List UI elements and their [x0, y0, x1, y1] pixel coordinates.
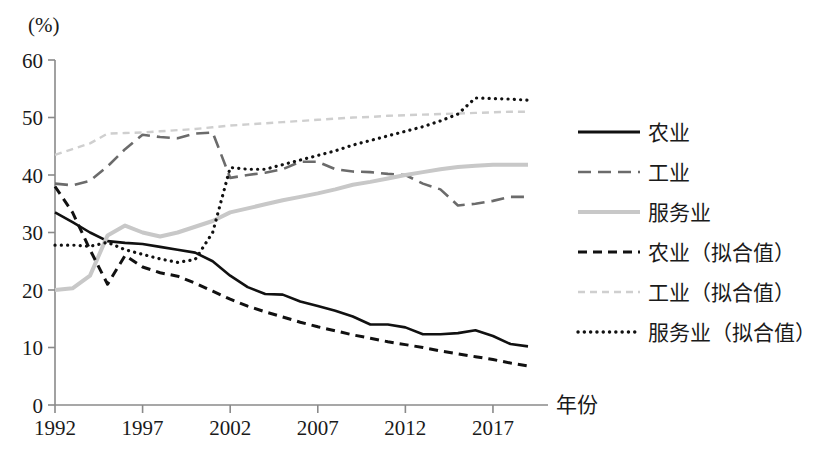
legend-item[interactable]: 农业	[578, 121, 690, 145]
legend-label: 工业	[648, 161, 690, 185]
x-tick-label: 2007	[297, 416, 339, 440]
y-tick-label: 60	[22, 49, 43, 73]
legend-item[interactable]: 工业（拟合值）	[578, 281, 795, 305]
y-axis-unit-label: (%)	[28, 13, 59, 37]
y-tick-label: 20	[22, 279, 43, 303]
legend-label: 农业（拟合值）	[648, 241, 795, 265]
y-tick-label: 50	[22, 106, 43, 130]
chart-container: (%) 0102030405060 1992199720022007201220…	[0, 0, 820, 473]
y-tick-label: 30	[22, 221, 43, 245]
series-line	[55, 212, 528, 346]
y-tick-label: 0	[33, 394, 44, 418]
y-tick-label: 40	[22, 164, 43, 188]
legend-item[interactable]: 工业	[578, 161, 690, 185]
x-tick-label: 2012	[384, 416, 426, 440]
legend-item[interactable]: 服务业	[578, 201, 711, 225]
legend-item[interactable]: 农业（拟合值）	[578, 241, 795, 265]
line-chart: (%) 0102030405060 1992199720022007201220…	[0, 0, 820, 473]
x-tick-label: 2002	[209, 416, 251, 440]
chart-legend: 农业工业服务业农业（拟合值）工业（拟合值）服务业（拟合值）	[578, 121, 816, 345]
legend-item[interactable]: 服务业（拟合值）	[578, 321, 816, 345]
x-tick-label: 1992	[34, 416, 76, 440]
legend-label: 工业（拟合值）	[648, 281, 795, 305]
x-axis-title: 年份	[556, 393, 598, 417]
y-tick-label: 10	[22, 336, 43, 360]
legend-label: 服务业（拟合值）	[648, 321, 816, 345]
x-tick-label: 2017	[472, 416, 514, 440]
x-axis-ticks: 199219972002200720122017	[34, 405, 514, 440]
series-line	[55, 187, 528, 366]
legend-label: 农业	[648, 121, 690, 145]
series-lines	[55, 98, 528, 366]
legend-label: 服务业	[648, 201, 711, 225]
x-tick-label: 1997	[122, 416, 164, 440]
series-line	[55, 165, 528, 290]
y-axis-ticks: 0102030405060	[22, 49, 55, 418]
